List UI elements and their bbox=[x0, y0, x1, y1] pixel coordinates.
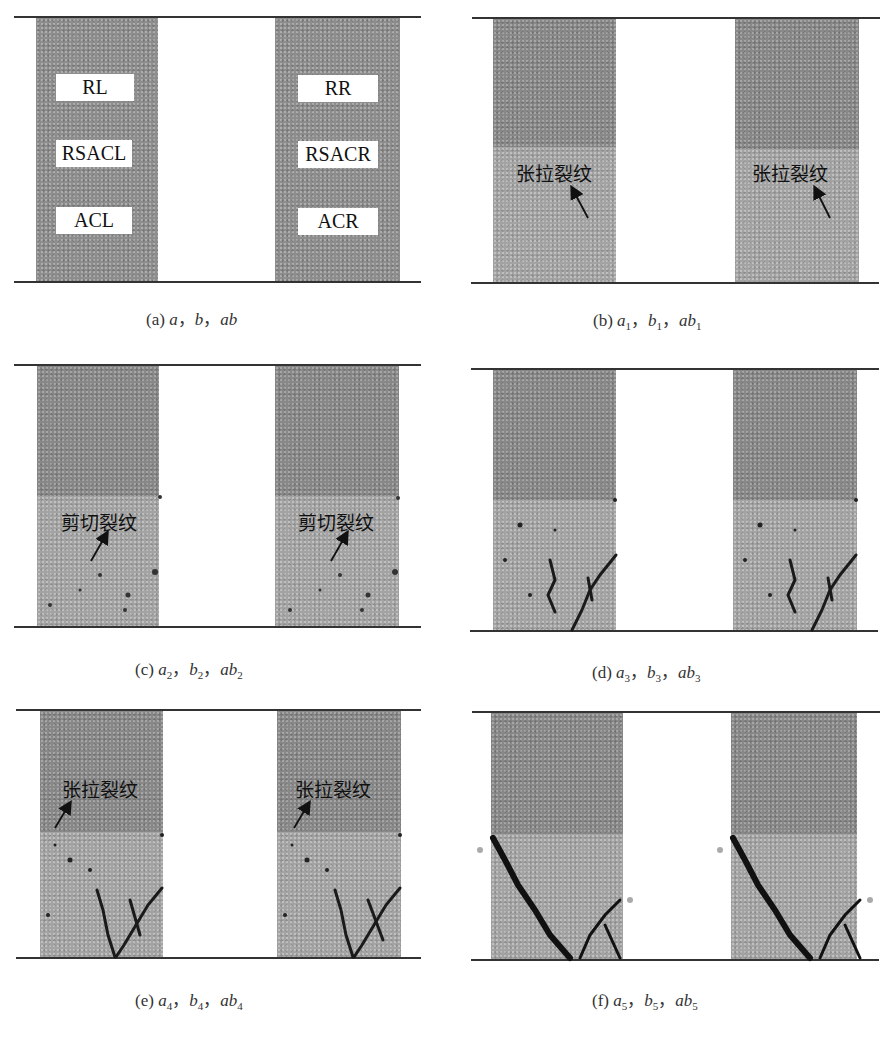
caption-f: (f) a5，b5，ab5 bbox=[592, 986, 698, 1012]
crack-pattern bbox=[0, 0, 887, 1043]
